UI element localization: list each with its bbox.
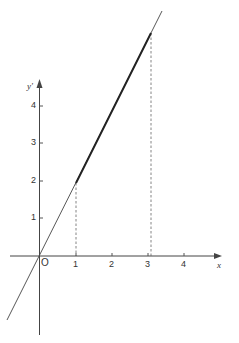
x-axis-label: x	[217, 261, 221, 270]
x-tick-label-1: 1	[73, 260, 78, 269]
highlighted-segment	[76, 33, 151, 183]
x-tick-label-4: 4	[181, 260, 186, 269]
y-tick-label-3: 3	[31, 138, 36, 147]
y-tick-label-1: 1	[31, 213, 36, 222]
graph-canvas	[0, 0, 239, 343]
y-tick-label-4: 4	[31, 101, 36, 110]
derivative-graph-figure: y' x O 1 2 3 4 1 2 3 4	[0, 0, 239, 343]
origin-label: O	[41, 258, 49, 268]
x-axis-arrowhead-icon	[214, 253, 222, 259]
y-tick-label-2: 2	[31, 176, 36, 185]
y-axis-label: y'	[27, 82, 33, 91]
x-tick-label-2: 2	[109, 260, 114, 269]
x-tick-label-3: 3	[145, 260, 150, 269]
y-axis-arrowhead-icon	[37, 79, 43, 88]
